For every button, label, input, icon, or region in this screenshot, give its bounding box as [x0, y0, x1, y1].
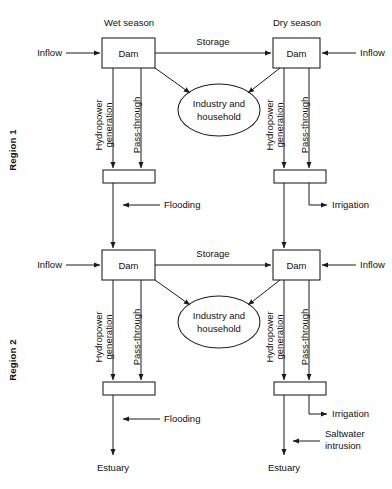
passthrough-label-r2-left: Pass-through — [131, 309, 142, 366]
dam-label-r2-wet: Dam — [118, 260, 138, 271]
region-label-1: Region 1 — [7, 129, 18, 171]
inflow-label-r1-right: Inflow — [360, 47, 385, 58]
hydropower-label-r1-left-line2: generation — [103, 103, 114, 148]
hydropower-label-r2-left-line2: generation — [103, 315, 114, 360]
industry-feed-arrow-r1-right — [248, 68, 280, 93]
outlet-bar-r2-left — [103, 382, 155, 395]
saltwater-intrusion-label-r2-line2: intrusion — [325, 440, 361, 451]
irrigation-arrow-r2 — [309, 395, 327, 414]
estuary-label-r2-left: Estuary — [97, 462, 129, 473]
dam-label-r2-dry: Dam — [286, 260, 306, 271]
dam-flow-diagram: Region 1 Region 2 Wet season Dry season … — [0, 0, 392, 489]
saltwater-intrusion-label-r2-line1: Saltwater — [325, 428, 365, 439]
season-header-dry: Dry season — [273, 17, 321, 28]
industry-feed-arrow-r2-left — [155, 280, 190, 305]
industry-household-ellipse-r2 — [178, 296, 260, 348]
dam-label-r1-wet: Dam — [118, 48, 138, 59]
diagram-canvas: Region 1 Region 2 Wet season Dry season … — [0, 0, 392, 489]
region-label-2: Region 2 — [7, 339, 18, 381]
inflow-label-r2-right: Inflow — [360, 259, 385, 270]
flooding-label-r2: Flooding — [164, 413, 200, 424]
hydropower-label-r2-right-line2: generation — [274, 315, 285, 360]
flooding-label-r1: Flooding — [164, 199, 200, 210]
industry-household-label-r1-line1: Industry and — [193, 98, 245, 109]
season-header-wet: Wet season — [104, 17, 154, 28]
inflow-label-r1-left: Inflow — [37, 47, 62, 58]
industry-household-label-r2-line1: Industry and — [193, 310, 245, 321]
passthrough-label-r1-left: Pass-through — [131, 97, 142, 154]
estuary-label-r2-right: Estuary — [268, 462, 300, 473]
inflow-label-r2-left: Inflow — [37, 259, 62, 270]
passthrough-label-r1-right: Pass-through — [299, 97, 310, 154]
irrigation-label-r1: Irrigation — [332, 199, 369, 210]
storage-label-r1: Storage — [196, 36, 229, 47]
hydropower-label-r1-right-line2: generation — [274, 103, 285, 148]
industry-feed-arrow-r1-left — [155, 68, 190, 93]
industry-household-label-r1-line2: household — [197, 111, 241, 122]
irrigation-label-r2: Irrigation — [332, 408, 369, 419]
industry-household-label-r2-line2: household — [197, 323, 241, 334]
passthrough-label-r2-right: Pass-through — [299, 309, 310, 366]
outlet-bar-r2-right — [274, 382, 326, 395]
storage-label-r2: Storage — [196, 248, 229, 259]
industry-household-ellipse-r1 — [178, 84, 260, 136]
irrigation-arrow-r1 — [309, 183, 327, 205]
dam-label-r1-dry: Dam — [286, 48, 306, 59]
industry-feed-arrow-r2-right — [248, 280, 280, 305]
outlet-bar-r1-left — [103, 170, 155, 183]
outlet-bar-r1-right — [274, 170, 326, 183]
